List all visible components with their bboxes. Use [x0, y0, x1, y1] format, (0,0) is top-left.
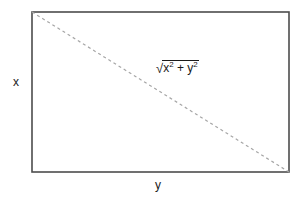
side-label-x: x — [9, 76, 23, 88]
side-label-y: y — [150, 179, 166, 191]
rectangle-diagonal-figure — [0, 0, 303, 202]
formula-operator: + — [177, 61, 184, 75]
diagonal-dashed-line — [32, 12, 289, 172]
term-two-exponent: 2 — [193, 60, 197, 69]
radicand-expression: x2 + y2 — [162, 60, 199, 75]
diagonal-length-formula: √x2 + y2 — [156, 60, 199, 75]
term-one-exponent: 2 — [169, 60, 173, 69]
diagram-canvas: x y √x2 + y2 — [0, 0, 303, 202]
